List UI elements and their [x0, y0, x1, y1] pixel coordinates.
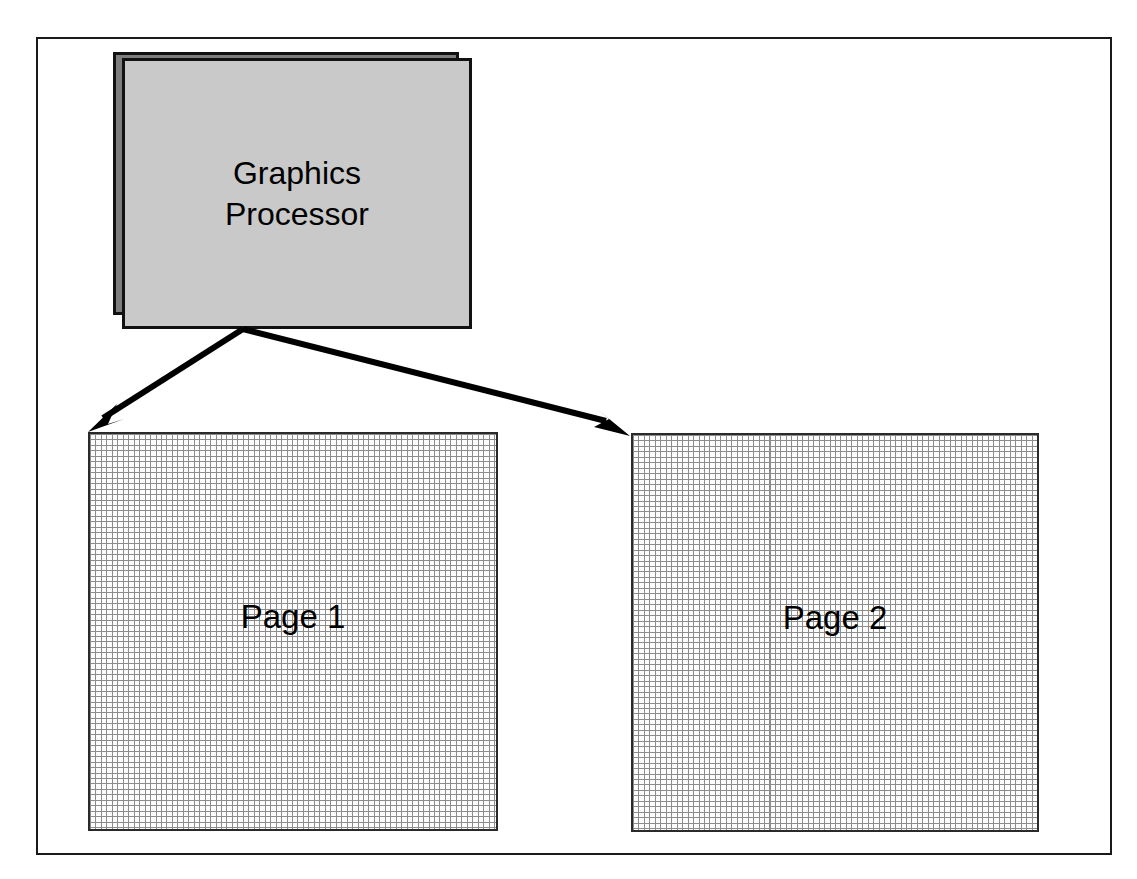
- page-1-label: Page 1: [241, 599, 346, 635]
- graphics-processor-label-line-1: Graphics: [233, 153, 361, 194]
- graphics-processor-label-line-2: Processor: [225, 194, 369, 235]
- page-2-label: Page 2: [783, 600, 888, 636]
- graphics-processor-node[interactable]: Graphics Processor: [113, 52, 472, 329]
- graphics-processor-box[interactable]: Graphics Processor: [122, 58, 472, 329]
- diagram-canvas: Graphics Processor Page 1 Page 2: [0, 0, 1137, 879]
- page-1-raster[interactable]: Page 1: [88, 432, 498, 831]
- page-2-raster[interactable]: Page 2: [631, 433, 1039, 832]
